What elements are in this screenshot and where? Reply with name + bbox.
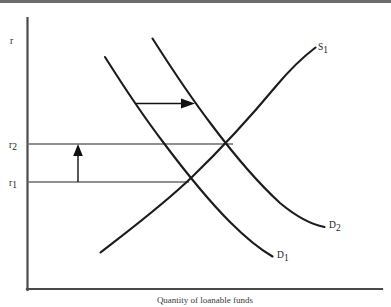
economics-figure: r r2 r1 S1 D2 D1 Quantity of loanable fu… <box>0 0 391 307</box>
supply-demand-chart: r r2 r1 S1 D2 D1 Quantity of loanable fu… <box>0 0 391 307</box>
curve-label-s1: S1 <box>318 42 328 55</box>
upward-rate-arrow <box>73 144 83 182</box>
rate-label-r1: r1 <box>9 178 17 191</box>
rate-label-r2: r2 <box>9 140 17 153</box>
demand-curve-d1 <box>105 57 273 257</box>
y-axis-label: r <box>10 36 14 46</box>
x-axis-caption-group: Quantity of loanable funds <box>157 295 254 305</box>
curve-label-d1: D1 <box>277 250 289 263</box>
demand-curve-d2 <box>153 39 325 228</box>
page-top-rule <box>0 0 391 3</box>
supply-curve-s1 <box>101 48 316 253</box>
rightward-shift-arrow <box>136 99 195 109</box>
curve-label-d2: D2 <box>329 220 341 233</box>
x-axis-caption: Quantity of loanable funds <box>157 295 254 305</box>
